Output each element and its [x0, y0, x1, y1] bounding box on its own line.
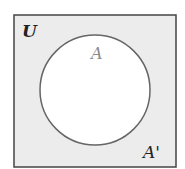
set-a-label: A	[89, 44, 103, 63]
venn-diagram: U A A'	[0, 0, 185, 169]
universe-label: U	[22, 21, 38, 41]
complement-label: A'	[141, 142, 160, 162]
